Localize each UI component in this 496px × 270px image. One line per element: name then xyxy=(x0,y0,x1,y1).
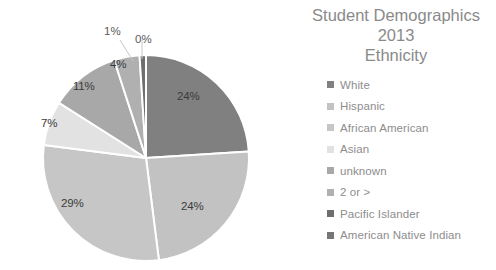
chart-title-line-1: Student Demographics xyxy=(296,5,496,25)
legend-item-hispanic[interactable]: Hispanic xyxy=(327,96,496,118)
legend-label-unknown: unknown xyxy=(340,165,387,177)
legend-item-american-native-indian[interactable]: American Native Indian xyxy=(327,225,496,247)
legend-item-african-american[interactable]: African American xyxy=(327,117,496,139)
data-label-asian: 7% xyxy=(41,117,57,129)
legend-item-2-or-more[interactable]: 2 or > xyxy=(327,182,496,204)
legend-swatch-icon-asian xyxy=(327,146,334,153)
data-label-american-native-indian: 0% xyxy=(135,33,152,45)
legend-label-pacific-islander: Pacific Islander xyxy=(340,208,420,220)
chart-title: Student Demographics 2013 Ethnicity xyxy=(296,0,496,65)
data-label-hispanic: 24% xyxy=(181,200,203,212)
legend-item-white[interactable]: White xyxy=(327,74,496,96)
legend-swatch-icon-unknown xyxy=(327,167,334,174)
legend-swatch-icon-pacific-islander xyxy=(327,210,334,217)
chart-side-panel: Student Demographics 2013 Ethnicity Whit… xyxy=(296,0,496,270)
pie-slice-white[interactable] xyxy=(146,55,249,158)
legend-label-white: White xyxy=(340,79,370,91)
legend-label-asian: Asian xyxy=(340,143,369,155)
data-label-2-or-more: 4% xyxy=(110,58,126,70)
legend-label-american-native-indian: American Native Indian xyxy=(340,229,461,241)
legend-label-2-or-more: 2 or > xyxy=(340,186,370,198)
legend-swatch-icon-white xyxy=(327,81,334,88)
data-label-unknown: 11% xyxy=(73,80,95,92)
pie-chart-area: 24% 24% 29% 7% 11% 4% 1% 0% xyxy=(0,0,300,270)
legend-item-asian[interactable]: Asian xyxy=(327,139,496,161)
legend-swatch-icon-african-american xyxy=(327,124,334,131)
data-label-white: 24% xyxy=(177,90,199,102)
legend-item-pacific-islander[interactable]: Pacific Islander xyxy=(327,203,496,225)
chart-title-line-3: Ethnicity xyxy=(296,45,496,65)
data-label-african-american: 29% xyxy=(61,197,83,209)
chart-legend: White Hispanic African American Asian un… xyxy=(296,74,496,246)
legend-swatch-icon-american-native-indian xyxy=(327,232,334,239)
legend-item-unknown[interactable]: unknown xyxy=(327,160,496,182)
chart-title-line-2: 2013 xyxy=(296,25,496,45)
legend-label-hispanic: Hispanic xyxy=(340,100,385,112)
legend-swatch-icon-2-or-more xyxy=(327,189,334,196)
legend-swatch-icon-hispanic xyxy=(327,103,334,110)
data-label-pacific-islander: 1% xyxy=(104,25,121,37)
legend-label-african-american: African American xyxy=(340,122,429,134)
